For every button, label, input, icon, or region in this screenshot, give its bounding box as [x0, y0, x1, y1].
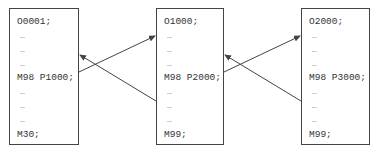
- return-arrow-1: [80, 55, 156, 101]
- call-arrow-1: [79, 36, 155, 72]
- return-arrow-2: [225, 55, 301, 101]
- call-arrow-2: [224, 36, 300, 72]
- flow-arrows: [0, 0, 379, 153]
